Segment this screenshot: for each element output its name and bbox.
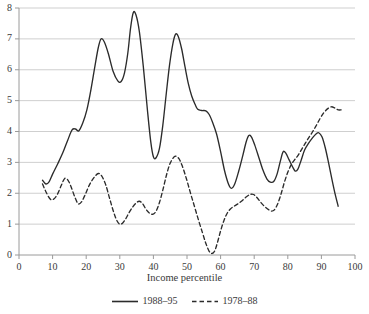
legend-label-dashed: 1978–88 (223, 296, 258, 306)
x-tick-label: 20 (73, 261, 99, 272)
x-tick-label: 0 (6, 261, 32, 272)
legend-entry-solid[interactable]: 1988–95 (112, 296, 178, 306)
line-chart: 012345678 0102030405060708090100 Income … (0, 0, 369, 314)
x-axis-title: Income percentile (0, 272, 369, 283)
gridlines (19, 8, 355, 224)
x-tick-label: 40 (140, 261, 166, 272)
axis-ticks (15, 8, 355, 259)
x-tick-label: 80 (275, 261, 301, 272)
x-tick-label: 90 (308, 261, 334, 272)
x-tick-label: 50 (174, 261, 200, 272)
x-tick-label: 30 (107, 261, 133, 272)
x-tick-label: 10 (40, 261, 66, 272)
y-tick-label: 2 (0, 187, 12, 198)
y-tick-label: 0 (0, 249, 12, 260)
y-tick-label: 4 (0, 125, 12, 136)
data-series (43, 12, 342, 254)
x-tick-label: 60 (208, 261, 234, 272)
series-line-1 (43, 107, 342, 254)
y-tick-label: 7 (0, 32, 12, 43)
legend-entry-dashed[interactable]: 1978–88 (192, 296, 258, 306)
x-tick-label: 70 (241, 261, 267, 272)
y-tick-label: 3 (0, 156, 12, 167)
y-tick-label: 6 (0, 63, 12, 74)
y-tick-label: 5 (0, 94, 12, 105)
chart-legend: 1988–95 1978–88 (0, 296, 369, 306)
series-line-0 (43, 12, 339, 207)
legend-label-solid: 1988–95 (143, 296, 178, 306)
y-tick-label: 8 (0, 2, 12, 13)
legend-swatch-solid-line (112, 298, 138, 305)
x-tick-label: 100 (342, 261, 368, 272)
legend-swatch-dashed-line (192, 298, 218, 305)
y-tick-label: 1 (0, 218, 12, 229)
